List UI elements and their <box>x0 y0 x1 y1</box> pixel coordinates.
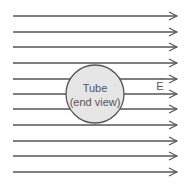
field-line <box>13 12 177 20</box>
electric-field-diagram: Tube (end view) → E <box>0 0 187 185</box>
field-label-e: E <box>156 80 163 92</box>
tube-title-label: Tube <box>83 82 108 94</box>
field-line <box>13 28 177 36</box>
field-line <box>13 168 177 176</box>
tube-end-view-circle <box>66 65 124 123</box>
field-label: → E <box>156 74 163 92</box>
field-line <box>13 152 177 160</box>
field-line <box>13 137 177 145</box>
tube-subtitle-label: (end view) <box>70 96 121 108</box>
field-line <box>13 43 177 51</box>
